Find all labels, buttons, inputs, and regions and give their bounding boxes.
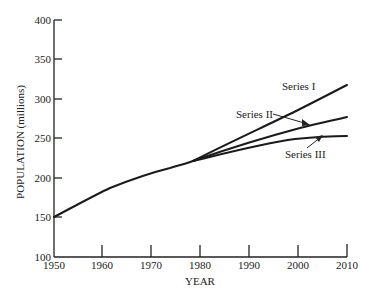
- y-tick-label: 300: [35, 93, 52, 105]
- x-tick-label: 1980: [189, 259, 212, 271]
- y-axis-title: POPULATION (millions): [14, 85, 27, 199]
- x-tick-label: 1970: [140, 259, 163, 271]
- x-ticks: [102, 244, 347, 257]
- series-2-label: Series II: [236, 108, 273, 120]
- x-tick-label: 2010: [336, 259, 359, 271]
- series-1-label: Series I: [282, 80, 316, 92]
- y-tick-label: 150: [35, 211, 52, 223]
- x-tick-label: 1950: [43, 259, 66, 271]
- y-tick-label: 350: [35, 53, 52, 65]
- x-tick-label: 1960: [91, 259, 114, 271]
- x-tick-labels: 1950 1960 1970 1980 1990 2000 2010: [43, 259, 359, 271]
- y-ticks: [54, 20, 62, 217]
- common-trend-line: [54, 161, 193, 217]
- y-tick-label: 250: [35, 132, 52, 144]
- y-tick-label: 200: [35, 172, 52, 184]
- y-tick-label: 400: [35, 14, 52, 26]
- y-tick-labels: 100 150 200 250 300 350 400: [35, 14, 52, 263]
- series-3-label: Series III: [285, 148, 326, 160]
- x-tick-label: 1990: [238, 259, 261, 271]
- x-axis-title: YEAR: [185, 275, 216, 287]
- x-tick-label: 2000: [287, 259, 310, 271]
- population-chart: 100 150 200 250 300 350 400 1950 1960 19…: [0, 0, 373, 300]
